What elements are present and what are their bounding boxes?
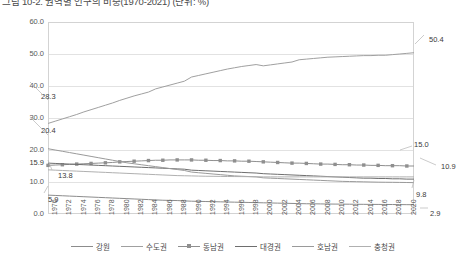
y-axis-tick-label: 40.0 xyxy=(0,81,44,90)
data-point-label: 50.4 xyxy=(429,35,444,44)
legend-swatch-icon xyxy=(235,243,257,250)
series-marker xyxy=(219,159,222,162)
x-axis-tick-label: 2004 xyxy=(295,199,302,215)
legend-label: 호남권 xyxy=(317,241,338,252)
leader-line xyxy=(415,35,424,44)
legend-label: 동남권 xyxy=(203,241,224,252)
data-point-label: 9.8 xyxy=(416,190,426,199)
x-axis-tick-label: 2000 xyxy=(266,199,273,215)
x-axis-tick-label: 1988 xyxy=(180,199,187,215)
data-point-label: 13.8 xyxy=(58,171,73,180)
x-axis-tick-label: 1984 xyxy=(151,199,158,215)
data-point-label: 28.3 xyxy=(41,92,56,101)
series-marker xyxy=(290,161,293,164)
series-marker xyxy=(376,164,379,167)
y-axis-tick-label: 50.0 xyxy=(0,49,44,58)
y-axis-tick-label: 20.0 xyxy=(0,145,44,154)
legend-swatch-icon xyxy=(71,243,93,250)
series-lines xyxy=(48,22,414,214)
series-marker xyxy=(132,160,135,163)
legend-item-수도권[interactable]: 수도권 xyxy=(121,241,167,252)
x-axis-tick-label: 2008 xyxy=(324,199,331,215)
x-axis-tick-label: 1996 xyxy=(238,199,245,215)
series-line xyxy=(48,53,414,124)
legend-swatch-icon xyxy=(178,243,200,250)
x-axis-tick-label: 1972 xyxy=(65,199,72,215)
legend-swatch-icon xyxy=(349,243,371,250)
series-marker xyxy=(247,160,250,163)
series-marker xyxy=(190,158,193,161)
data-point-label: 10.9 xyxy=(441,162,456,171)
y-axis-highlight-label: 15.9 xyxy=(0,158,44,167)
legend-swatch-icon xyxy=(292,243,314,250)
series-marker xyxy=(305,162,308,165)
data-point-label: 2.9 xyxy=(430,209,440,218)
legend-label: 강원 xyxy=(96,241,110,252)
x-axis-tick-label: 1992 xyxy=(209,199,216,215)
x-axis-tick-label: 2018 xyxy=(395,199,402,215)
x-axis-tick-label: 1982 xyxy=(137,199,144,215)
series-marker xyxy=(147,159,150,162)
data-point-label: 15.0 xyxy=(414,140,429,149)
x-axis-tick-label: 2014 xyxy=(367,199,374,215)
y-axis-tick-label: 10.0 xyxy=(0,177,44,186)
legend-label: 대경권 xyxy=(260,241,281,252)
y-axis-tick-label: 30.0 xyxy=(0,113,44,122)
series-marker xyxy=(175,158,178,161)
x-axis-tick-label: 2006 xyxy=(309,199,316,215)
legend-label: 충청권 xyxy=(374,241,395,252)
series-marker xyxy=(319,162,322,165)
x-axis-tick-label: 1980 xyxy=(123,199,130,215)
x-axis-tick-label: 1974 xyxy=(80,199,87,215)
series-marker xyxy=(204,159,207,162)
data-point-label: 5.9 xyxy=(48,195,58,204)
chart-title: 그림 10-2. 권역별 인구의 비중(1970-2021) (단위: %) xyxy=(2,0,209,8)
x-axis-tick-label: 1998 xyxy=(252,199,259,215)
legend-item-대경권[interactable]: 대경권 xyxy=(235,241,281,252)
series-marker xyxy=(405,164,408,167)
series-marker xyxy=(362,163,365,166)
series-marker xyxy=(391,164,394,167)
leader-line xyxy=(420,158,436,165)
data-point-label: 20.4 xyxy=(41,126,56,135)
legend-label: 수도권 xyxy=(146,241,167,252)
x-axis-tick-label: 1986 xyxy=(166,199,173,215)
series-marker xyxy=(161,159,164,162)
series-line xyxy=(48,195,414,205)
series-marker xyxy=(262,160,265,163)
x-axis-tick-label: 1994 xyxy=(223,199,230,215)
series-marker xyxy=(348,163,351,166)
x-axis-tick-label: 2020 xyxy=(410,199,417,215)
x-axis-tick-label: 2016 xyxy=(381,199,388,215)
x-axis-tick-label: 2002 xyxy=(281,199,288,215)
series-marker xyxy=(276,161,279,164)
series-marker xyxy=(233,159,236,162)
legend-swatch-icon xyxy=(121,243,143,250)
y-axis-tick-label: 60.0 xyxy=(0,17,44,26)
legend-item-동남권[interactable]: 동남권 xyxy=(178,241,224,252)
legend-item-호남권[interactable]: 호남권 xyxy=(292,241,338,252)
legend-item-강원[interactable]: 강원 xyxy=(71,241,110,252)
legend-item-충청권[interactable]: 충청권 xyxy=(349,241,395,252)
series-marker xyxy=(46,164,49,167)
series-marker xyxy=(333,163,336,166)
chart-legend: 강원수도권동남권대경권호남권충청권 xyxy=(0,239,465,253)
y-axis-tick-label: 0.0 xyxy=(0,209,44,218)
x-axis-tick-label: 1976 xyxy=(94,199,101,215)
x-axis-tick-label: 1978 xyxy=(108,199,115,215)
series-marker xyxy=(104,161,107,164)
x-axis-tick-label: 1990 xyxy=(195,199,202,215)
x-axis-tick-label: 2012 xyxy=(352,199,359,215)
x-axis-tick-label: 2010 xyxy=(338,199,345,215)
